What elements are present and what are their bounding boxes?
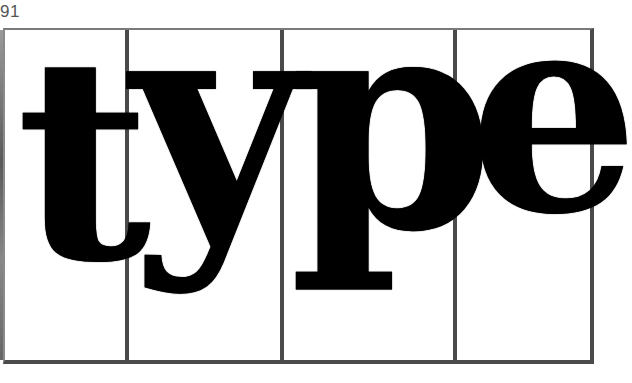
letter-p: p: [289, 0, 495, 272]
letter-y: y: [130, 0, 304, 272]
letter-frame: t y p e: [3, 28, 594, 364]
letter-e: e: [469, 0, 632, 252]
